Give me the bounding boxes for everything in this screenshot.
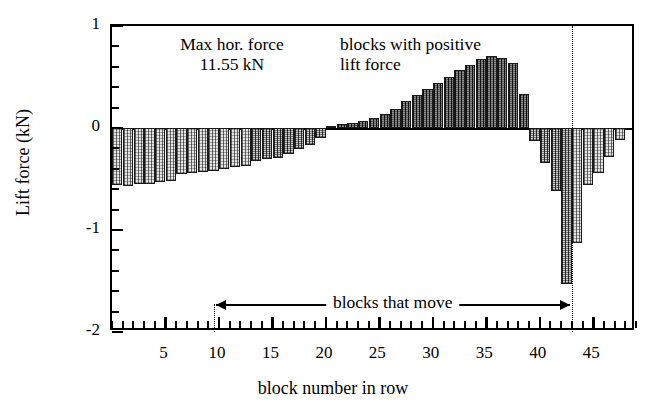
x-tick-27: [400, 321, 402, 328]
x-tick-48: [624, 321, 626, 328]
bar-block-12: [230, 128, 240, 167]
marker-line-right: [572, 26, 573, 332]
y-tick--0.6: [112, 188, 119, 190]
x-tick-34: [475, 321, 477, 328]
x-tick-37: [507, 321, 509, 328]
y-tick-0.8: [112, 45, 119, 47]
bar-block-32: [444, 77, 454, 128]
y-tick--1.6: [112, 290, 119, 292]
x-tick-45: [592, 317, 595, 328]
x-tick-32: [453, 321, 455, 328]
bar-block-26: [380, 114, 390, 128]
annotation-positive-line1: blocks with positive: [340, 34, 481, 54]
x-tick-46: [603, 321, 605, 328]
bar-block-44: [572, 128, 582, 243]
y-tick--1.8: [112, 311, 119, 313]
arrow-head-left-icon: [216, 300, 226, 310]
x-tick-13: [250, 321, 252, 328]
x-tick-label-40: 40: [518, 344, 558, 361]
y-tick-0.4: [112, 86, 119, 88]
bar-block-15: [262, 128, 272, 159]
x-tick-26: [389, 321, 391, 328]
bar-block-14: [251, 128, 261, 161]
x-tick-40: [539, 317, 542, 328]
x-tick-9: [207, 321, 209, 328]
x-tick-33: [464, 321, 466, 328]
y-tick--2: [112, 331, 123, 334]
y-tick-label--2: -2: [64, 321, 100, 338]
x-tick-16: [282, 321, 284, 328]
x-axis-title: block number in row: [0, 378, 666, 399]
lift-force-bar-chart: Lift force (kN) block number in row -2-1…: [0, 0, 666, 417]
x-tick-4: [154, 321, 156, 328]
bar-block-48: [615, 128, 625, 140]
bar-block-6: [166, 128, 176, 181]
x-tick-21: [336, 321, 338, 328]
x-tick-36: [496, 321, 498, 328]
x-tick-label-5: 5: [143, 344, 183, 361]
x-tick-15: [271, 317, 274, 328]
x-tick-38: [517, 321, 519, 328]
x-tick-24: [368, 321, 370, 328]
y-axis-title: Lift force (kN): [13, 78, 34, 248]
bar-block-20: [315, 128, 325, 138]
x-tick-31: [443, 321, 445, 328]
bar-block-16: [273, 128, 283, 158]
bar-block-21: [326, 126, 336, 128]
bar-block-30: [422, 89, 432, 128]
annotation-positive-lift-force: blocks with positive lift force: [340, 34, 481, 74]
bar-block-46: [593, 128, 603, 173]
x-tick-49: [635, 321, 637, 328]
annotation-positive-line2: lift force: [340, 54, 481, 74]
y-tick-label-0: 0: [64, 117, 100, 134]
bar-block-22: [337, 124, 347, 128]
bar-block-43: [561, 128, 571, 284]
x-tick-label-15: 15: [250, 344, 290, 361]
bar-block-17: [283, 128, 293, 154]
x-tick-28: [410, 321, 412, 328]
y-tick--1.2: [112, 249, 119, 251]
x-tick-41: [549, 321, 551, 328]
y-tick--1.4: [112, 270, 119, 272]
x-tick-25: [378, 317, 381, 328]
x-tick-12: [239, 321, 241, 328]
bar-block-8: [187, 128, 197, 173]
bar-block-39: [519, 94, 529, 128]
bar-block-36: [486, 56, 496, 128]
x-tick-23: [357, 321, 359, 328]
y-tick--0.8: [112, 209, 119, 211]
bar-block-18: [294, 128, 304, 149]
bar-block-11: [219, 128, 229, 169]
y-tick-0: [112, 127, 123, 130]
y-tick-0.2: [112, 107, 119, 109]
plot-area: Max hor. force 11.55 kN blocks with posi…: [110, 24, 634, 330]
bar-block-25: [369, 118, 379, 128]
marker-line-left: [214, 304, 215, 332]
y-tick-0.6: [112, 66, 119, 68]
bar-block-4: [144, 128, 154, 184]
bar-block-42: [551, 128, 561, 191]
bar-block-19: [305, 128, 315, 145]
annotation-max-horizontal-force: Max hor. force 11.55 kN: [142, 34, 322, 74]
bar-block-28: [401, 101, 411, 128]
bar-block-33: [454, 70, 464, 128]
bar-block-1: [112, 128, 122, 185]
x-tick-14: [261, 321, 263, 328]
x-tick-47: [614, 321, 616, 328]
x-tick-0: [111, 321, 113, 328]
x-tick-label-25: 25: [357, 344, 397, 361]
x-tick-2: [132, 321, 134, 328]
y-tick--0.2: [112, 147, 119, 149]
x-tick-label-30: 30: [411, 344, 451, 361]
y-tick-1: [112, 25, 123, 28]
bar-block-10: [208, 128, 218, 171]
x-tick-label-45: 45: [571, 344, 611, 361]
bar-block-47: [604, 128, 614, 157]
x-tick-44: [582, 321, 584, 328]
x-tick-label-20: 20: [304, 344, 344, 361]
x-tick-29: [421, 321, 423, 328]
bar-block-7: [176, 128, 186, 174]
bar-block-5: [155, 128, 165, 182]
x-tick-10: [218, 317, 221, 328]
x-tick-8: [197, 321, 199, 328]
